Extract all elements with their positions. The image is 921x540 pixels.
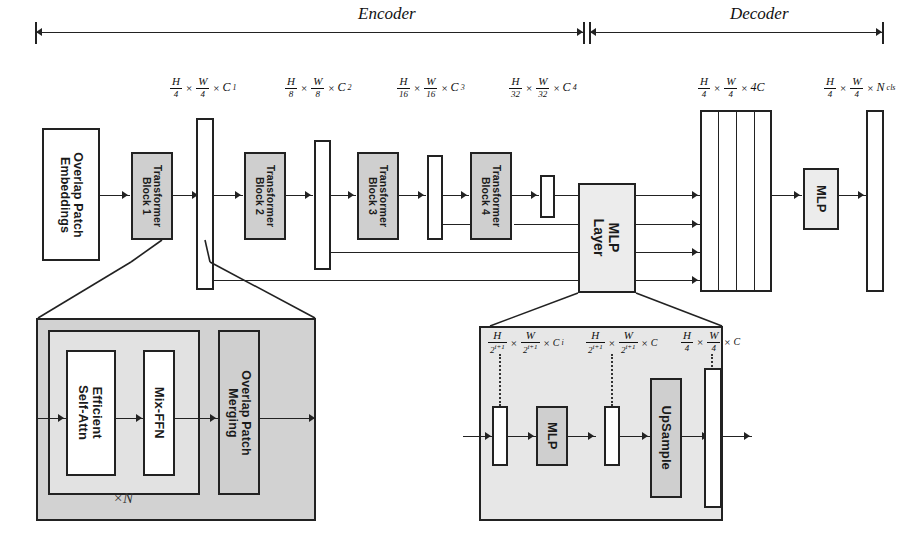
- detail-out-arrow: [309, 414, 315, 422]
- mlp-out-arrow-1: [692, 191, 698, 199]
- dim-leader-1: [499, 354, 501, 406]
- decoder-bracket-arrow-left: [590, 28, 596, 36]
- block-label-line1: Transformer: [491, 165, 502, 227]
- block-label-line2: Block 4: [480, 165, 491, 227]
- dim-den: 4: [683, 344, 692, 353]
- dim-den-exp: i+1: [593, 343, 603, 351]
- dim-channels: C: [563, 80, 571, 95]
- mlp-detail-arrow-3: [642, 432, 648, 440]
- mlp-out-arrow-4: [692, 276, 698, 284]
- dim-den: 4: [700, 90, 709, 99]
- mlp-detail-in-arrow: [485, 432, 491, 440]
- skip-line-2b: [442, 224, 470, 225]
- mlp-detail-cone: [450, 290, 780, 330]
- dim-den: 4: [853, 90, 862, 99]
- dim-num: W: [850, 76, 863, 87]
- dim-num: H: [398, 76, 410, 87]
- mlp-detail-arrow-1: [528, 432, 534, 440]
- dim-channels-sub: cls: [887, 83, 896, 92]
- overlap-patch-merging-block[interactable]: Overlap Patch Merging: [218, 330, 260, 495]
- block-label-line1: Transformer: [152, 165, 163, 227]
- dim-num: H: [824, 76, 836, 87]
- block-label-line1: UpSample: [659, 406, 673, 470]
- dim-channels: C: [338, 80, 346, 95]
- flow-arrow-f2-b3: [348, 191, 354, 199]
- block-label-line2: Embeddings: [58, 152, 71, 237]
- dim-channels-sub: 2: [348, 83, 352, 92]
- dim-channels-sub: 1: [233, 83, 237, 92]
- encoder-bracket-arrow-left: [36, 28, 42, 36]
- dim-num: W: [724, 76, 737, 87]
- flow-arrow-concat-mlp: [794, 191, 800, 199]
- detail-arrow-ffn-merge: [210, 414, 216, 422]
- encoder-bracket-line: [35, 32, 583, 33]
- mlp-detail-dim-1: H2i+1 × W2i+1 ×Ci: [487, 330, 564, 355]
- efficient-self-attn-block[interactable]: Efficient Self-Attn: [66, 350, 116, 476]
- mix-ffn-block[interactable]: Mix-FFN: [143, 350, 175, 476]
- transformer-block-1[interactable]: Transformer Block 1: [131, 152, 173, 240]
- flow-arrow-f3-b4: [461, 191, 467, 199]
- dim-den-exp: i+1: [527, 343, 537, 351]
- dim-num: W: [536, 76, 549, 87]
- dim-label-decoder-concat: H4 × W4 ×4C: [697, 76, 765, 99]
- dim-channels-sub: i: [561, 338, 563, 347]
- dim-den: 16: [397, 90, 410, 99]
- dim-num: W: [424, 76, 437, 87]
- dim-num: H: [698, 76, 710, 87]
- dim-num: W: [707, 330, 720, 341]
- detail-arrow-attn-ffn: [136, 414, 142, 422]
- transformer-block-3[interactable]: Transformer Block 3: [357, 152, 399, 240]
- flow-arrow-b3-f3: [418, 191, 424, 199]
- block-label-line2: Block 3: [367, 165, 378, 227]
- dim-num: H: [589, 330, 601, 341]
- skip-line-2: [514, 224, 579, 225]
- flow-arrow-b2-f2: [305, 191, 311, 199]
- decoder-output-feature-bar: [866, 110, 884, 292]
- skip-line-1: [552, 195, 579, 196]
- dim-den: 32: [509, 90, 522, 99]
- mlp-detail-mlp-block[interactable]: MLP: [536, 406, 568, 466]
- flow-arrow-mlp-out: [858, 191, 864, 199]
- dim-channels: C: [734, 336, 741, 347]
- mlp-detail-dim-3: H4 × W4 ×C: [680, 330, 740, 353]
- dim-den: 8: [287, 90, 296, 99]
- dim-den-exp: i+1: [495, 343, 505, 351]
- block-label-line2: Block 1: [141, 165, 152, 227]
- mlp-out-line-2: [636, 224, 700, 225]
- dim-label-stage-4: H32 × W32 ×C4: [508, 76, 577, 99]
- dim-den: 4: [172, 90, 181, 99]
- mlp-out-line-1: [636, 195, 700, 196]
- flow-arrow-f1-b2: [235, 191, 241, 199]
- dim-channels: C: [223, 80, 231, 95]
- mlp-detail-arrow-2: [588, 432, 594, 440]
- decoder-mlp-block[interactable]: MLP: [803, 168, 839, 230]
- encoder-section-label: Encoder: [358, 4, 416, 24]
- upsample-block[interactable]: UpSample: [650, 378, 682, 498]
- block-label-line1: MLP: [607, 219, 622, 257]
- dim-den: 4: [826, 90, 835, 99]
- concat-divider-2: [736, 110, 737, 292]
- block-label-line1: MLP: [814, 185, 828, 213]
- dim-den: 4: [710, 344, 719, 353]
- dim-leader-2: [611, 354, 613, 406]
- mlp-layer-detail-panel: [479, 326, 723, 521]
- transformer-block-2[interactable]: Transformer Block 2: [244, 152, 286, 240]
- dim-num: W: [524, 330, 537, 341]
- dim-num: W: [311, 76, 324, 87]
- transformer-block-4[interactable]: Transformer Block 4: [470, 152, 512, 240]
- dim-den: 4: [199, 90, 208, 99]
- detail-out-line: [260, 418, 316, 419]
- dim-num: H: [170, 76, 182, 87]
- decoder-section-label: Decoder: [730, 4, 789, 24]
- dim-den: 32: [536, 90, 549, 99]
- mlp-detail-feature-bar-3: [704, 368, 722, 508]
- flow-arrow-b4-f4: [531, 191, 537, 199]
- concat-divider-1: [718, 110, 719, 292]
- mlp-layer-block[interactable]: MLP Layer: [578, 183, 636, 293]
- dim-num: W: [622, 330, 635, 341]
- mlp-out-arrow-2: [692, 220, 698, 228]
- dim-num: W: [196, 76, 209, 87]
- block-label-line2: Block 2: [254, 165, 265, 227]
- feature-map-stage-3: [427, 155, 443, 240]
- dim-num: H: [491, 330, 503, 341]
